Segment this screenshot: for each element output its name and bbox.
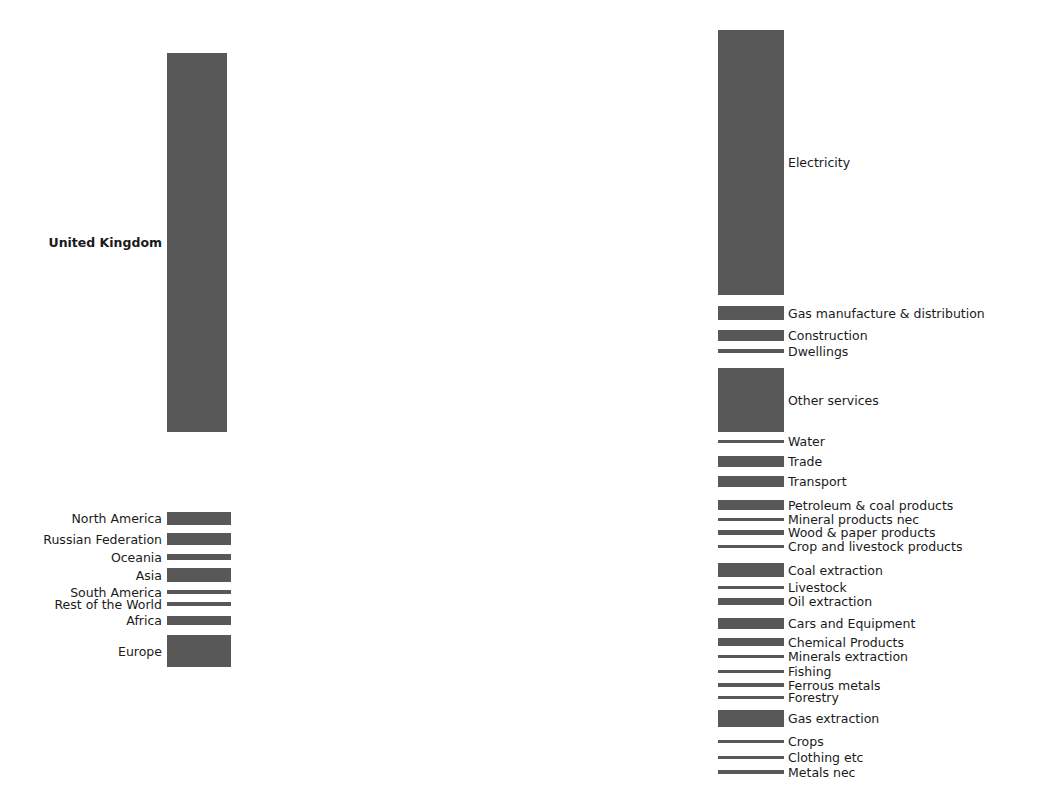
sankey-node-electricity[interactable] [718,30,784,295]
sankey-node-united_kingdom[interactable] [167,53,227,432]
sankey-link[interactable] [231,420,718,580]
sankey-link[interactable] [231,291,718,570]
sankey-link[interactable] [231,570,718,626]
sankey-node-oil_extraction[interactable] [718,598,784,605]
sankey-link[interactable] [231,424,718,603]
sankey-node-asia[interactable] [167,568,231,582]
sankey-link[interactable] [231,427,718,647]
sankey-link[interactable] [227,339,718,416]
sankey-link[interactable] [231,580,718,774]
sankey-link[interactable] [231,544,718,685]
sankey-node-other_services[interactable] [718,368,784,432]
sankey-link[interactable] [231,642,718,661]
sankey-link[interactable] [231,290,718,513]
sankey-node-trade[interactable] [718,456,784,467]
sankey-link[interactable] [227,326,718,339]
sankey-link[interactable] [227,418,718,547]
sankey-link[interactable] [227,30,718,315]
sankey-link[interactable] [231,547,718,591]
sankey-node-europe[interactable] [167,635,231,667]
sankey-node-livestock[interactable] [718,586,784,589]
sankey-link[interactable] [231,484,718,653]
sankey-link[interactable] [231,423,718,593]
sankey-link[interactable] [231,591,718,687]
sankey-link[interactable] [231,541,718,574]
sankey-node-water[interactable] [718,440,784,443]
sankey-link[interactable] [231,623,718,743]
sankey-link[interactable] [231,554,718,577]
sankey-link[interactable] [231,339,718,641]
sankey-link[interactable] [231,524,718,712]
sankey-link[interactable] [231,519,718,571]
sankey-link[interactable] [231,573,718,759]
sankey-node-crops[interactable] [718,740,784,743]
sankey-link[interactable] [231,619,718,658]
sankey-link[interactable] [231,507,718,656]
sankey-node-minerals_extraction[interactable] [718,655,784,658]
sankey-link[interactable] [231,533,718,658]
sankey-link[interactable] [227,393,718,464]
sankey-node-north_america[interactable] [167,512,231,525]
sankey-node-gas_manufacture[interactable] [718,306,784,320]
sankey-link[interactable] [231,317,718,514]
sankey-node-crop_livestock[interactable] [718,545,784,548]
sankey-link[interactable] [231,604,718,722]
sankey-node-gas_extraction[interactable] [718,710,784,727]
sankey-node-forestry[interactable] [718,696,784,699]
sankey-node-metals_nec[interactable] [718,770,784,774]
sankey-link[interactable] [231,603,718,619]
sankey-link[interactable] [231,626,718,664]
sankey-link[interactable] [231,533,718,721]
sankey-link[interactable] [227,429,718,621]
sankey-link[interactable] [231,318,718,639]
sankey-node-clothing_etc[interactable] [718,756,784,759]
sankey-link[interactable] [231,593,718,741]
sankey-node-mineral_products_nec[interactable] [718,518,784,521]
sankey-node-label-wood_paper: Wood & paper products [788,525,935,540]
sankey-link[interactable] [231,464,718,650]
sankey-link[interactable] [231,543,718,771]
sankey-node-label-europe: Europe [118,644,162,659]
sankey-link[interactable] [227,335,718,353]
sankey-link[interactable] [227,391,718,443]
sankey-node-south_america[interactable] [167,590,231,594]
sankey-link[interactable] [231,602,718,604]
sankey-link[interactable] [227,401,718,483]
sankey-link[interactable] [231,483,718,518]
sankey-link[interactable] [231,418,718,560]
sankey-link[interactable] [227,424,718,589]
sankey-link[interactable] [227,415,718,533]
sankey-link[interactable] [231,521,718,623]
sankey-link[interactable] [231,556,718,656]
sankey-link[interactable] [231,547,718,559]
sankey-node-petroleum_coal[interactable] [718,500,784,510]
sankey-link[interactable] [231,523,718,639]
sankey-link[interactable] [231,605,718,673]
sankey-node-ferrous_metals[interactable] [718,683,784,687]
sankey-link[interactable] [227,413,718,521]
sankey-link[interactable] [227,426,718,600]
sankey-link[interactable] [231,539,718,602]
sankey-node-coal_extraction[interactable] [718,563,784,577]
sankey-node-label-crops: Crops [788,734,824,749]
sankey-link[interactable] [227,408,718,506]
sankey-node-russian_federation[interactable] [167,533,231,545]
sankey-link[interactable] [231,575,718,642]
sankey-node-transport[interactable] [718,476,784,487]
sankey-node-dwellings[interactable] [718,349,784,353]
sankey-link[interactable] [231,293,718,637]
sankey-node-wood_paper[interactable] [718,530,784,535]
sankey-node-construction[interactable] [718,330,784,341]
sankey-node-rest_of_the_world[interactable] [167,602,231,606]
sankey-node-chemical_products[interactable] [718,638,784,646]
sankey-node-fishing[interactable] [718,670,784,673]
sankey-link[interactable] [231,425,718,623]
sankey-node-oceania[interactable] [167,554,231,560]
sankey-link[interactable] [231,506,718,519]
sankey-node-africa[interactable] [167,616,231,625]
sankey-link[interactable] [227,420,718,569]
sankey-link[interactable] [227,306,718,326]
sankey-link[interactable] [231,416,718,517]
sankey-node-cars_equipment[interactable] [718,618,784,629]
sankey-link[interactable] [231,664,718,727]
